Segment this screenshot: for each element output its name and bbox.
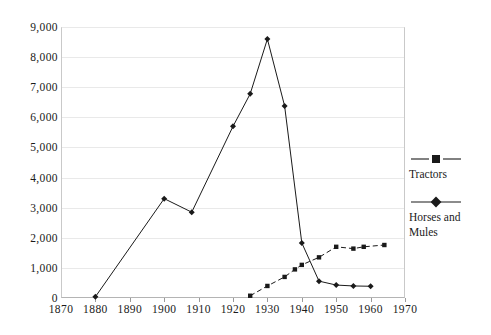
- data-point: [316, 278, 322, 284]
- data-point: [161, 196, 167, 202]
- data-point: [264, 36, 270, 42]
- diamond-marker-icon: [409, 195, 483, 209]
- data-point: [92, 294, 98, 300]
- data-point: [265, 284, 269, 288]
- line-chart: 01,0002,0003,0004,0005,0006,0007,0008,00…: [0, 0, 491, 335]
- square-marker-icon: [409, 152, 483, 166]
- data-point: [293, 267, 297, 271]
- legend-label-tractors: Tractors: [409, 167, 489, 181]
- legend-entry-horses-and-mules[interactable]: Horses and Mules: [409, 195, 489, 239]
- data-point: [247, 91, 253, 97]
- data-point: [189, 209, 195, 215]
- data-point: [230, 123, 236, 129]
- series-horses-and-mules: [92, 36, 373, 300]
- data-point: [368, 283, 374, 289]
- data-point: [282, 275, 286, 279]
- data-point: [351, 246, 355, 250]
- data-point: [334, 245, 338, 249]
- chart-legend: Tractors Horses and Mules: [409, 152, 489, 253]
- data-point: [282, 103, 288, 109]
- data-point: [350, 283, 356, 289]
- data-point: [333, 282, 339, 288]
- data-point: [317, 255, 321, 259]
- legend-label-horses-and-mules: Horses and Mules: [409, 210, 489, 239]
- data-point: [382, 243, 386, 247]
- legend-entry-tractors[interactable]: Tractors: [409, 152, 489, 181]
- data-point: [300, 263, 304, 267]
- data-point: [362, 245, 366, 249]
- series-tractors: [248, 243, 387, 298]
- data-point: [248, 294, 252, 298]
- data-point: [299, 240, 305, 246]
